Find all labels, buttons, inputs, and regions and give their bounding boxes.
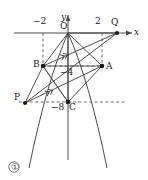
point-label-Q: Q [111,18,118,27]
parallel-marker-BQ-icon [60,52,69,60]
tick-label-x-neg2: −2 [33,17,46,26]
point-B-dot [41,64,46,69]
point-A-dot [100,64,105,69]
point-label-C: C [69,103,76,112]
x-axis-label: x [134,28,139,37]
tick-label-y-neg4: −4 [60,68,73,77]
segment-O-A [68,33,102,66]
tick-label-x-pos2: 2 [95,17,101,26]
origin-label: O [60,22,67,31]
segment-P-B [25,66,43,103]
point-P-dot [23,101,27,105]
segment-O-B [43,33,68,66]
geometry-figure: y x O −2 2 −4 −8 Q A B C P ① [0,0,148,180]
tick-label-y-neg8: −8 [51,103,64,112]
x-axis-arrow-icon [126,31,132,36]
figure-caption: ① [11,162,19,172]
point-Q-dot [115,31,119,35]
figure-canvas [0,0,148,180]
point-label-P: P [14,93,20,102]
point-label-B: B [33,60,40,69]
point-label-A: A [106,62,113,71]
